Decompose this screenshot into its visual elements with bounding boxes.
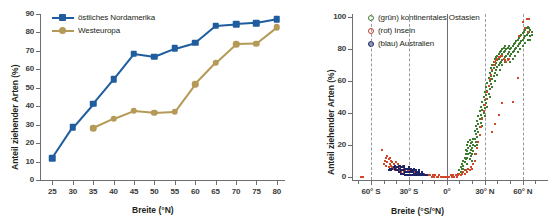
- right-chart-data-point: [462, 165, 464, 167]
- right-chart-data-point: [485, 98, 487, 100]
- right-chart-data-point: [518, 35, 520, 37]
- left-chart-x-tick: [134, 181, 135, 185]
- right-chart-x-minor-tick: [497, 181, 498, 184]
- right-chart-data-point: [501, 64, 503, 66]
- right-chart-gridline-zero: [447, 14, 448, 180]
- left-chart-x-tick: [114, 181, 115, 185]
- right-chart-data-point: [501, 102, 503, 104]
- right-chart-x-minor-tick: [358, 181, 359, 184]
- right-chart-data-point: [481, 118, 483, 120]
- left-chart-line-segment: [52, 127, 74, 159]
- left-chart-y-tick-label: 20: [18, 138, 34, 147]
- right-chart-data-point: [495, 69, 497, 71]
- right-chart-data-point: [471, 141, 473, 143]
- right-chart-x-tick-label: 30° S: [393, 187, 425, 196]
- left-chart-y-tick-label: 10: [18, 157, 34, 166]
- right-chart-data-point: [531, 34, 533, 36]
- right-chart-x-axis: [352, 180, 548, 181]
- right-chart-data-point: [483, 110, 485, 112]
- left-chart-plot-area: 0102030405060708090253035404550556065707…: [40, 14, 285, 180]
- left-chart-data-point: [69, 124, 76, 131]
- left-chart-x-tick-label: 35: [84, 187, 102, 196]
- right-chart-y-tick-label: 100: [326, 12, 346, 21]
- left-chart-data-point: [233, 41, 240, 48]
- right-chart-y-tick: [348, 17, 352, 18]
- right-chart-data-point: [491, 131, 493, 133]
- left-chart-x-tick: [93, 181, 94, 185]
- right-chart-data-point: [475, 153, 477, 155]
- left-chart-y-tick: [36, 14, 40, 15]
- left-chart-x-axis-title: Breite (°N): [132, 205, 174, 215]
- right-chart-data-point: [466, 163, 468, 165]
- right-chart-data-point: [362, 176, 364, 178]
- right-chart-data-point: [484, 115, 486, 117]
- left-chart-y-tick-label: 30: [18, 120, 34, 129]
- left-chart-y-tick: [36, 69, 40, 70]
- right-chart-data-point: [494, 80, 496, 82]
- left-chart-y-tick-label: 80: [18, 27, 34, 36]
- right-chart-data-point: [421, 171, 423, 173]
- right-chart-y-tick: [348, 81, 352, 82]
- right-chart-y-tick: [348, 177, 352, 178]
- right-chart-data-point: [489, 78, 491, 80]
- left-chart-x-tick-label: 40: [105, 187, 123, 196]
- left-chart-y-tick-label: 90: [18, 9, 34, 18]
- right-chart-x-minor-tick: [384, 181, 385, 184]
- left-chart-data-point: [172, 109, 179, 116]
- right-chart-data-point: [528, 18, 530, 20]
- right-chart-data-point: [524, 42, 526, 44]
- left-chart-data-point: [274, 16, 281, 23]
- right-chart-data-point: [514, 55, 516, 57]
- left-chart-panel: Anteil ziehender Arten (%) Breite (°N) ö…: [0, 0, 296, 222]
- right-chart-x-tick: [523, 181, 524, 185]
- right-chart-data-point: [491, 69, 493, 71]
- left-chart-x-tick-label: 50: [145, 187, 163, 196]
- right-chart-y-tick: [348, 145, 352, 146]
- right-chart-x-minor-tick: [396, 181, 397, 184]
- left-chart-x-tick: [195, 181, 196, 185]
- left-chart-x-tick-label: 55: [166, 187, 184, 196]
- right-chart-y-axis: [352, 14, 353, 180]
- right-chart-data-point: [527, 31, 529, 33]
- left-chart-data-point: [192, 81, 199, 88]
- right-chart-data-point: [493, 75, 495, 77]
- left-chart-x-tick-label: 60: [186, 187, 204, 196]
- right-chart-data-point: [499, 69, 501, 71]
- right-chart-data-point: [493, 64, 495, 66]
- left-chart-data-point: [110, 76, 117, 83]
- left-chart-y-axis-title: Anteil ziehender Arten (%): [10, 65, 20, 170]
- left-chart-y-tick-label: 70: [18, 46, 34, 55]
- right-chart-x-minor-tick: [434, 181, 435, 184]
- right-chart-data-point: [474, 160, 476, 162]
- right-chart-data-point: [477, 141, 479, 143]
- right-chart-data-point: [522, 21, 524, 23]
- right-chart-data-point: [479, 134, 481, 136]
- right-chart-data-point: [490, 83, 492, 85]
- right-chart-data-point: [480, 122, 482, 124]
- right-chart-data-point: [531, 31, 533, 33]
- right-chart-data-point: [403, 165, 405, 167]
- left-chart-data-point: [90, 101, 97, 108]
- left-chart-data-point: [192, 40, 199, 47]
- right-chart-data-point: [471, 168, 473, 170]
- right-chart-x-tick: [371, 181, 372, 185]
- right-chart-data-point: [381, 149, 383, 151]
- left-chart-x-tick: [256, 181, 257, 185]
- right-chart-gridline-dashed: [409, 14, 410, 180]
- left-chart-x-tick: [73, 181, 74, 185]
- left-chart-x-tick-label: 30: [64, 187, 82, 196]
- right-chart-data-point: [486, 91, 488, 93]
- left-chart-data-point: [253, 40, 260, 47]
- figure-container: Anteil ziehender Arten (%) Breite (°N) ö…: [0, 0, 556, 222]
- right-chart-data-point: [517, 77, 519, 79]
- right-chart-y-tick-label: 20: [326, 140, 346, 149]
- left-chart-x-tick-label: 80: [268, 187, 286, 196]
- left-chart-x-tick: [52, 181, 53, 185]
- left-chart-data-point: [274, 24, 281, 31]
- right-chart-data-point: [426, 174, 428, 176]
- right-chart-data-point: [477, 131, 479, 133]
- left-chart-y-tick: [36, 88, 40, 89]
- right-chart-panel: Anteil ziehender Arten (%) Breite (°S/°N…: [296, 0, 556, 222]
- right-chart-data-point: [389, 157, 391, 159]
- left-chart-data-point: [172, 45, 179, 52]
